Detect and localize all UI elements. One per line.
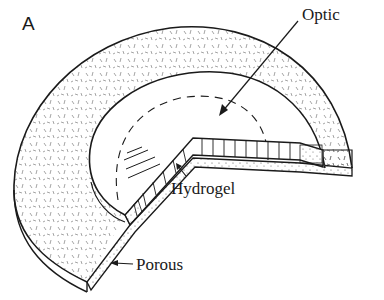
hydrogel-label: Hydrogel	[171, 180, 235, 197]
keratoprosthesis-diagram	[0, 0, 384, 300]
porous-label: Porous	[136, 256, 183, 273]
optic-shading	[124, 147, 160, 178]
porous-section	[87, 158, 352, 290]
optic-label: Optic	[302, 6, 340, 23]
